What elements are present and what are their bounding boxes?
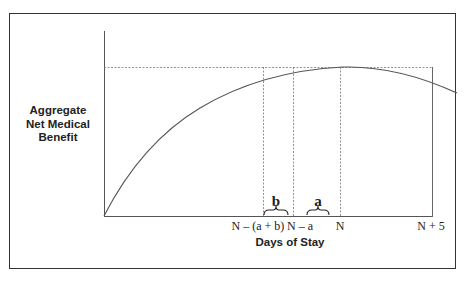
tick-n-plus-5: N + 5 — [417, 219, 444, 234]
x-axis-label: Days of Stay — [255, 236, 324, 248]
y-axis-label-line-1: Aggregate — [20, 104, 96, 118]
y-axis-label: Aggregate Net Medical Benefit — [20, 104, 96, 145]
brace-label-b: b — [272, 193, 280, 210]
tick-n-minus-a: N – a — [287, 219, 313, 234]
y-axis-label-line-2: Net Medical — [20, 118, 96, 132]
tick-n: N — [336, 219, 345, 234]
benefit-curve — [104, 67, 457, 216]
brace-label-a: a — [314, 193, 322, 210]
y-axis-label-line-3: Benefit — [20, 131, 96, 145]
tick-n-minus-ab: N – (a + b) — [232, 219, 285, 234]
